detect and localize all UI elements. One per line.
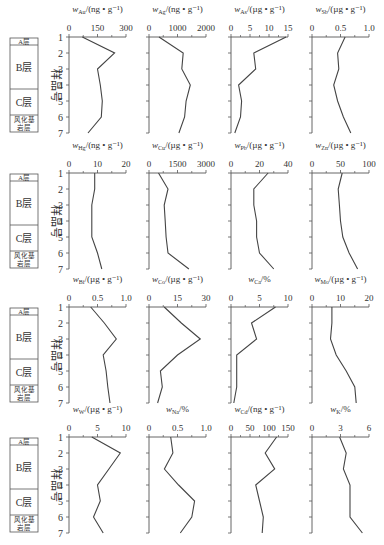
x-tick-label: 0	[67, 159, 72, 169]
profile-line-w	[92, 437, 121, 533]
profile-line-ca	[234, 307, 276, 403]
x-tick-label: 100	[262, 423, 276, 433]
x-tick-label: 1.0	[120, 293, 132, 303]
panel-title: wAu/(ng • g⁻¹)	[72, 4, 122, 15]
x-tick-label: 300	[119, 23, 133, 33]
x-tick-label: 5	[257, 293, 262, 303]
panel-title: wW/(µg • g⁻¹)	[73, 404, 122, 415]
sample-number-label: 5	[58, 366, 63, 377]
layer-weathered-label-2: 岩层	[17, 123, 31, 132]
profile-line-cu	[159, 173, 189, 269]
sample-number-label: 4	[58, 350, 63, 361]
panel-title: wMo/(µg • g⁻¹)	[314, 274, 366, 285]
x-tick-label: 0.5	[92, 293, 104, 303]
sample-number-label: 1	[58, 32, 63, 43]
x-tick-label: 1.0	[363, 23, 375, 33]
layer-legend: A层B层C层风化基岩层	[10, 308, 38, 402]
sample-number-label: 6	[58, 512, 63, 523]
panel-bi: wBi/(µg • g⁻¹)00.51.01234567	[58, 274, 132, 409]
layer-a-label: A层	[18, 308, 30, 316]
profile-line-ag	[159, 37, 190, 133]
panel-title: wZn/(µg • g⁻¹)	[315, 140, 365, 151]
layer-weathered-label-2: 岩层	[17, 259, 31, 268]
element-profile-figure: A层B层C层风化基岩层样品号wAu/(ng • g⁻¹)015030012345…	[0, 0, 384, 545]
sample-number-label: 4	[58, 216, 63, 227]
panel-title: wCu/(µg • g⁻¹)	[152, 140, 203, 151]
panel-k: wK/%036	[309, 404, 372, 533]
panel-row-3: A层B层C层风化基岩层样品号wBi/(µg • g⁻¹)00.51.012345…	[10, 274, 374, 409]
profile-line-k	[340, 437, 363, 533]
layer-legend: A层B层C层风化基岩层	[10, 438, 38, 532]
x-tick-label: 20	[122, 159, 132, 169]
panel-mo: wMo/(µg • g⁻¹)01020	[309, 274, 374, 403]
x-tick-label: 10	[122, 423, 132, 433]
x-tick-label: 0	[310, 423, 315, 433]
x-tick-label: 10	[284, 293, 294, 303]
layer-legend: A层B层C层风化基岩层	[10, 38, 38, 132]
sample-number-label: 2	[58, 48, 63, 59]
x-tick-label: 0	[229, 293, 234, 303]
sample-number-label: 6	[58, 382, 63, 393]
x-tick-label: 50	[246, 423, 256, 433]
x-tick-label: 0	[147, 293, 152, 303]
panel-pb: wPb/(µg • g⁻¹)02040	[228, 140, 293, 269]
x-tick-label: 0	[67, 23, 72, 33]
x-tick-label: 1000	[169, 23, 188, 33]
panel-ca: wCa/%0510	[228, 274, 293, 403]
x-tick-label: 150	[91, 23, 105, 33]
x-tick-label: 0	[310, 23, 315, 33]
x-tick-label: 20	[255, 159, 265, 169]
panel-title: wNa/%	[166, 404, 190, 415]
panel-row-4: A层B层C层风化基岩层样品号wW/(µg • g⁻¹)05101234567wN…	[10, 404, 372, 539]
sample-number-label: 1	[58, 168, 63, 179]
layer-b-label: B层	[16, 332, 33, 343]
profile-line-mo	[331, 307, 357, 403]
layer-weathered-label-2: 岩层	[17, 393, 31, 402]
sample-number-label: 3	[58, 64, 63, 75]
x-tick-label: 2000	[197, 23, 216, 33]
profile-line-pb	[254, 173, 274, 269]
layer-c-label: C层	[16, 367, 33, 378]
x-tick-label: 0	[310, 293, 315, 303]
sample-number-label: 6	[58, 248, 63, 259]
panel-hg: wHg/(ng • g⁻¹)010201234567	[58, 140, 131, 275]
sample-number-label: 5	[58, 496, 63, 507]
profile-line-as	[235, 37, 286, 133]
panel-title: wAs/(µg • g⁻¹)	[234, 4, 284, 15]
sample-number-label: 7	[58, 528, 63, 539]
sample-number-label: 2	[58, 184, 63, 195]
panel-co: wCo/(µg • g⁻¹)01530	[146, 274, 211, 403]
x-tick-label: 0	[229, 423, 234, 433]
x-tick-label: 5	[248, 23, 253, 33]
profile-line-sb	[334, 37, 351, 133]
x-tick-label: 3000	[197, 159, 216, 169]
x-tick-label: 0	[147, 159, 152, 169]
x-tick-label: 0	[67, 293, 72, 303]
x-tick-label: 15	[173, 293, 183, 303]
layer-b-label: B层	[16, 462, 33, 473]
layer-a-label: A层	[18, 438, 30, 446]
x-tick-label: 150	[281, 423, 295, 433]
x-tick-label: 1500	[169, 159, 188, 169]
panel-title: wCo/(µg • g⁻¹)	[152, 274, 203, 285]
panel-title: wPb/(µg • g⁻¹)	[234, 140, 284, 151]
panel-title: wCd/(ng • g⁻¹)	[234, 404, 284, 415]
x-tick-label: 30	[202, 293, 212, 303]
x-tick-label: 10	[336, 293, 346, 303]
profile-line-au	[82, 37, 114, 133]
layer-b-label: B层	[16, 198, 33, 209]
layer-c-label: C层	[16, 497, 33, 508]
x-tick-label: 0.5	[335, 23, 347, 33]
x-tick-label: 100	[362, 159, 376, 169]
sample-number-label: 4	[58, 80, 63, 91]
panel-au: wAu/(ng • g⁻¹)01503001234567	[58, 4, 133, 139]
layer-c-label: C层	[16, 233, 33, 244]
panel-title: wBi/(µg • g⁻¹)	[73, 274, 122, 285]
profile-line-bi	[91, 307, 117, 403]
layer-legend: A层B层C层风化基岩层	[10, 174, 38, 268]
profile-line-hg	[92, 173, 102, 269]
sample-number-label: 7	[58, 398, 63, 409]
sample-number-label: 3	[58, 200, 63, 211]
sample-number-label: 3	[58, 334, 63, 345]
sample-number-label: 2	[58, 318, 63, 329]
